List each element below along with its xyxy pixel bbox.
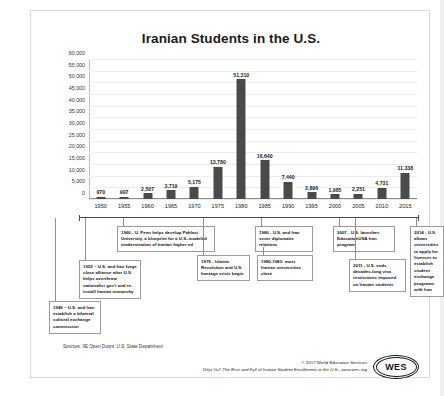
- bar-value-label: 4,731: [375, 180, 388, 186]
- bar[interactable]: [260, 160, 269, 199]
- annotation-connector: [203, 218, 204, 255]
- bar-group[interactable]: 2,251: [347, 59, 370, 199]
- bar-group[interactable]: 3,719: [159, 59, 182, 199]
- bar-group[interactable]: 2,896: [300, 59, 323, 199]
- y-axis-tick-label: 60,000: [69, 50, 85, 56]
- credit-block: © 2017 World Education Services Déjà Vu?…: [203, 359, 367, 373]
- bar-group[interactable]: 2,507: [136, 59, 159, 199]
- annotation-note[interactable]: 1949 – U.S. and Iran establish a bilater…: [49, 301, 101, 334]
- bar-value-label: 5,175: [188, 179, 201, 185]
- bar[interactable]: [330, 194, 339, 199]
- annotation-note[interactable]: 2007 - U.S. launches EducationUSA Iran p…: [333, 226, 395, 252]
- y-axis-tick-label: 20,000: [69, 143, 85, 149]
- page-title: Iranian Students in the U.S.: [31, 31, 431, 46]
- bar[interactable]: [143, 193, 152, 199]
- bar[interactable]: [190, 187, 199, 199]
- bar-group[interactable]: 13,780: [206, 59, 229, 199]
- bar[interactable]: [213, 167, 222, 199]
- annotation-note[interactable]: 1953 – U.S. and Iran forge close allianc…: [79, 260, 141, 299]
- bar-value-label: 2,896: [305, 185, 318, 191]
- y-axis-labels: 60,00055,00050,00045,00040,00035,00030,0…: [49, 53, 85, 193]
- bar-value-label: 3,719: [164, 183, 177, 189]
- bar[interactable]: [96, 197, 105, 199]
- copyright-line: © 2017 World Education Services: [203, 359, 367, 366]
- logo-text: WES: [373, 355, 419, 379]
- bar[interactable]: [120, 197, 129, 199]
- bar-group[interactable]: 970: [89, 59, 112, 199]
- y-axis-tick-label: 50,000: [69, 73, 85, 79]
- annotation-note[interactable]: 1980-1983: most Iranian universities clo…: [257, 255, 313, 281]
- timeline-axis: [79, 217, 419, 218]
- annotation-connector: [339, 218, 340, 226]
- y-axis-tick-label: 35,000: [69, 108, 85, 114]
- annotation-connector: [416, 218, 417, 226]
- bar[interactable]: [377, 188, 386, 199]
- y-axis-tick-label: 30,000: [69, 120, 85, 126]
- bar[interactable]: [354, 194, 363, 199]
- y-axis-tick-label: 40,000: [69, 97, 85, 103]
- annotation-note[interactable]: 1960 - U. Penn helps develop Pahlavi Uni…: [117, 226, 215, 252]
- bar[interactable]: [284, 182, 293, 199]
- y-axis-tick-label: 55,000: [69, 62, 85, 68]
- annotation-connector: [261, 218, 262, 226]
- bar-group[interactable]: 4,731: [370, 59, 393, 199]
- bar[interactable]: [237, 79, 246, 199]
- annotation-note[interactable]: 2014 - U.S. allows universities to apply…: [410, 226, 444, 297]
- sources-text: Sources: IIE Open Doors; U.S. State Depa…: [63, 344, 163, 349]
- bar-group[interactable]: 51,310: [230, 59, 253, 199]
- bar-group[interactable]: 16,640: [253, 59, 276, 199]
- y-axis-tick-label: 0: [82, 190, 85, 196]
- bar-value-label: 2,507: [141, 186, 154, 192]
- bar-value-label: 997: [120, 189, 129, 195]
- bar-value-label: 16,640: [257, 153, 273, 159]
- y-axis-tick-label: 45,000: [69, 85, 85, 91]
- annotation-note[interactable]: 1979 - Islamic Revolution and U.S. hosta…: [197, 255, 250, 281]
- bar-value-label: 11,338: [397, 165, 413, 171]
- bar-value-label: 1,985: [328, 187, 341, 193]
- annotation-note[interactable]: 2011 - U.S. ends decades-long visa restr…: [349, 259, 406, 292]
- annotation-connector: [263, 247, 264, 255]
- bar-value-label: 7,440: [282, 174, 295, 180]
- bar-group[interactable]: 5,175: [183, 59, 206, 199]
- report-title-line: Déjà Vu? The Rise and Fall of Iranian St…: [203, 366, 367, 373]
- y-axis-tick-label: 15,000: [69, 155, 85, 161]
- y-axis-tick-label: 10,000: [69, 167, 85, 173]
- bar[interactable]: [307, 192, 316, 199]
- gridline: [89, 199, 417, 200]
- plot-area: 9709972,5073,7195,17513,78051,31016,6407…: [89, 59, 417, 199]
- bar[interactable]: [166, 190, 175, 199]
- annotation-connector: [85, 218, 86, 260]
- bar-group[interactable]: 997: [112, 59, 135, 199]
- bar[interactable]: [401, 173, 410, 199]
- annotation-connector: [55, 218, 56, 301]
- y-axis-tick-label: 25,000: [69, 132, 85, 138]
- bar-value-label: 51,310: [233, 72, 249, 78]
- bar-value-label: 970: [96, 189, 105, 195]
- bar-group[interactable]: 1,985: [323, 59, 346, 199]
- x-axis-tick-label: 2015: [391, 203, 419, 209]
- bar-value-label: 13,780: [210, 159, 226, 165]
- bar-value-label: 2,251: [352, 186, 365, 192]
- annotation-connector: [123, 218, 124, 226]
- bar-group[interactable]: 11,338: [394, 59, 417, 199]
- y-axis-tick-label: 5,000: [72, 178, 85, 184]
- chart-card: Iranian Students in the U.S. 60,00055,00…: [30, 10, 430, 378]
- wes-logo: WES: [373, 355, 419, 379]
- bar-group[interactable]: 7,440: [276, 59, 299, 199]
- timeline-cap-right: [418, 215, 419, 221]
- timeline-cap-left: [79, 215, 80, 221]
- annotation-connector: [355, 218, 356, 259]
